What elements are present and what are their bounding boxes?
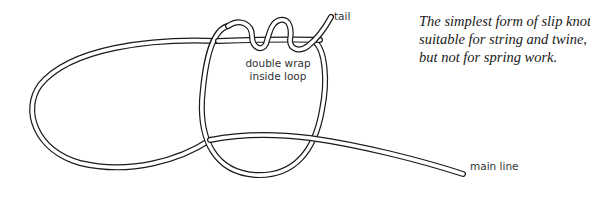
large-loop [32, 41, 218, 168]
double-wrap-label: double wrap inside loop [243, 57, 313, 83]
main-line-label: main line [470, 160, 519, 173]
double-wrap-label-line2: inside loop [243, 70, 313, 83]
caption-line-3: but not for spring work. [419, 48, 589, 66]
main-line-rope [210, 135, 463, 174]
caption-line-2: suitable for string and twine, [419, 30, 589, 48]
double-wrap-label-line1: double wrap [243, 57, 313, 70]
caption: The simplest form of slip knot – suitabl… [419, 12, 589, 66]
caption-line-1: The simplest form of slip knot – [419, 12, 589, 30]
tail-label: tail [334, 10, 350, 23]
